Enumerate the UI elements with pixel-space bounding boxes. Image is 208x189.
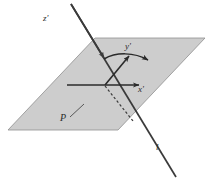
line-l-label: l: [156, 143, 159, 152]
point-p-label: P: [60, 113, 66, 123]
figure-canvas: [0, 0, 208, 189]
geometry-figure: z' y' x' P l: [0, 0, 208, 189]
z-axis-label: z': [43, 14, 48, 23]
y-axis-label: y': [125, 42, 131, 51]
x-axis-label: x': [138, 85, 144, 94]
